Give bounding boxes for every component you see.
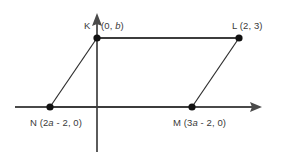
vertex-coord-label-m: M (3a - 2, 0) [173,117,226,128]
vertex-coord-label-n: N (2a - 2, 0) [30,117,82,128]
m-coord-prefix: M (3 [173,117,192,128]
vertex-dot-l [235,34,242,41]
n-coord-prefix: N (2 [30,117,48,128]
vertex-coord-label-k: (0, b) [101,20,124,31]
vertex-label-k: K [84,20,90,31]
vertex-dot-k [93,34,100,41]
m-coord-suffix: - 2, 0) [198,117,226,128]
vertex-coord-label-l: L (2, 3) [232,20,263,31]
vertex-dot-n [46,103,53,110]
geometry-figure: K (0, b) L (2, 3) N (2a - 2, 0) M (3a - … [0,0,290,166]
k-coord-prefix: (0, [101,20,115,31]
n-coord-suffix: - 2, 0) [54,117,82,128]
edge-ml [192,38,239,107]
vertex-dot-m [188,103,195,110]
k-coord-suffix: ) [121,20,124,31]
edge-nk [50,38,97,107]
